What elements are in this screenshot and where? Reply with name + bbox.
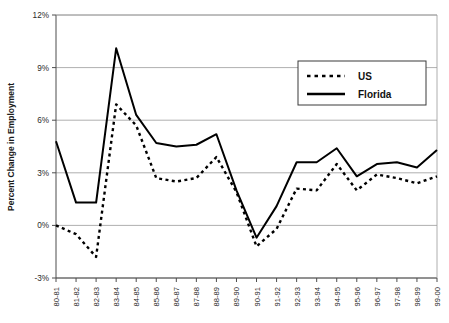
legend-label-florida: Florida <box>358 89 392 100</box>
y-tick-label: 0% <box>37 221 49 230</box>
y-tick-label: -3% <box>34 274 49 283</box>
x-tick-label: 99-00 <box>433 287 442 306</box>
x-tick-label: 80-81 <box>52 287 61 306</box>
chart-background <box>0 0 449 323</box>
x-tick-label: 82-83 <box>92 287 101 306</box>
x-tick-label: 92-93 <box>293 287 302 306</box>
x-tick-label: 83-84 <box>112 287 121 306</box>
chart-container: -3%0%3%6%9%12% 80-8181-8282-8383-8484-85… <box>0 0 449 323</box>
x-tick-label: 87-88 <box>192 287 201 306</box>
chart-legend: US Florida <box>298 61 426 105</box>
x-tick-label: 96-97 <box>373 287 382 306</box>
x-tick-label: 98-99 <box>413 287 422 306</box>
y-tick-label: 9% <box>37 64 49 73</box>
y-axis-title: Percent Change in Employment <box>6 83 16 211</box>
x-tick-label: 84-85 <box>132 287 141 306</box>
x-tick-label: 81-82 <box>72 287 81 306</box>
employment-line-chart: -3%0%3%6%9%12% 80-8181-8282-8383-8484-85… <box>0 0 449 323</box>
x-tick-label: 97-98 <box>393 287 402 306</box>
x-tick-label: 95-96 <box>353 287 362 306</box>
y-tick-label: 3% <box>37 169 49 178</box>
x-tick-label: 86-87 <box>172 287 181 306</box>
x-tick-label: 88-89 <box>212 287 221 306</box>
x-tick-label: 94-95 <box>333 287 342 306</box>
y-tick-label: 6% <box>37 116 49 125</box>
x-tick-label: 89-90 <box>232 287 241 306</box>
x-tick-label: 90-91 <box>253 287 262 306</box>
x-tick-label: 85-86 <box>152 287 161 306</box>
y-tick-label: 12% <box>33 11 49 20</box>
x-tick-label: 93-94 <box>313 287 322 306</box>
x-tick-label: 91-92 <box>273 287 282 306</box>
legend-label-us: US <box>358 71 372 82</box>
